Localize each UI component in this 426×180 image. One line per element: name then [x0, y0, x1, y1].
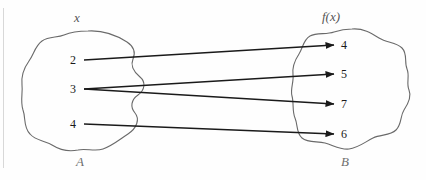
set-b-label: B	[341, 155, 349, 168]
codomain-element-6: 6	[341, 128, 347, 140]
codomain-element-5: 5	[341, 68, 347, 80]
arrow-3-to-5	[84, 74, 334, 89]
codomain-header-label: f(x)	[322, 10, 340, 23]
domain-element-2: 2	[70, 54, 76, 66]
codomain-element-4: 4	[341, 39, 347, 51]
domain-element-4: 4	[70, 118, 76, 130]
codomain-element-7: 7	[341, 98, 347, 110]
mapping-diagram-canvas: x f(x) 2 3 4 4 5 7 6 A B	[0, 0, 426, 180]
domain-element-3: 3	[70, 83, 76, 95]
set-a-label: A	[76, 155, 84, 168]
arrow-3-to-7	[84, 89, 334, 104]
diagram-svg	[0, 0, 426, 180]
domain-header-label: x	[74, 11, 80, 24]
